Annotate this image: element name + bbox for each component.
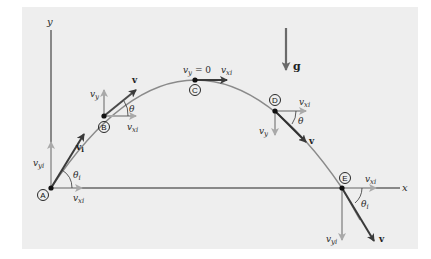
projectile-diagram: y x g A vi vyi θi vxi B v vy θ vxi bbox=[0, 0, 431, 259]
svg-text:vxi: vxi bbox=[299, 97, 310, 109]
svg-text:θ: θ bbox=[298, 116, 304, 126]
svg-text:θ: θ bbox=[129, 104, 135, 114]
svg-text:vy: vy bbox=[259, 126, 269, 138]
point-c-label: C bbox=[192, 86, 198, 95]
point-e-label: E bbox=[342, 174, 347, 183]
svg-text:v: v bbox=[378, 234, 385, 244]
svg-text:vxi: vxi bbox=[221, 65, 232, 77]
svg-text:θi: θi bbox=[73, 170, 81, 182]
svg-text:vyi: vyi bbox=[33, 158, 44, 170]
svg-text:θi: θi bbox=[361, 199, 369, 211]
x-axis-label: x bbox=[402, 182, 408, 193]
svg-text:vxi: vxi bbox=[73, 193, 84, 205]
point-d-label: D bbox=[272, 96, 278, 105]
gravity-vector: g bbox=[286, 28, 301, 73]
svg-text:vy: vy bbox=[90, 89, 100, 101]
svg-text:vyi: vyi bbox=[326, 234, 337, 246]
point-e: E vxi θi vyi v bbox=[326, 173, 385, 247]
y-axis-label: y bbox=[46, 16, 53, 27]
point-b: B v vy θ vxi bbox=[90, 75, 138, 134]
svg-text:vxi: vxi bbox=[127, 122, 138, 134]
point-a: A vi vyi θi vxi bbox=[33, 134, 84, 205]
point-d: D vxi θ vy v bbox=[259, 95, 315, 147]
svg-text:v: v bbox=[308, 136, 315, 146]
point-b-label: B bbox=[101, 123, 106, 132]
point-a-label: A bbox=[40, 191, 46, 200]
svg-text:v: v bbox=[131, 75, 138, 85]
trajectory-curve bbox=[51, 80, 360, 220]
svg-text:vy = 0: vy = 0 bbox=[183, 65, 211, 77]
gravity-label: g bbox=[293, 60, 301, 73]
svg-text:vxi: vxi bbox=[365, 174, 376, 186]
